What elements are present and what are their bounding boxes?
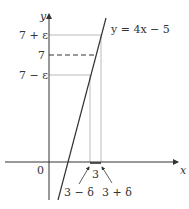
y-tick-center: 7 — [38, 49, 45, 62]
y-tick-lower: 7 − ε — [19, 69, 48, 82]
x-tick-center: 3 — [92, 168, 99, 181]
x-tick-left: 3 − δ — [64, 186, 94, 199]
left-delta-pointer — [79, 167, 89, 184]
vertical-guides — [90, 35, 101, 162]
epsilon-delta-diagram: y x 0 y = 4x − 5 7 + ε 7 7 − ε 3 3 − δ 3… — [0, 0, 189, 209]
y-tick-upper: 7 + ε — [19, 29, 48, 42]
x-tick-right: 3 + δ — [102, 186, 132, 199]
horizontal-guides — [49, 35, 101, 75]
origin-label: 0 — [37, 164, 44, 177]
line-label: y = 4x − 5 — [110, 23, 170, 36]
right-delta-pointer — [102, 167, 112, 183]
x-axis-label: x — [180, 164, 187, 177]
y-axis-label: y — [39, 10, 47, 23]
